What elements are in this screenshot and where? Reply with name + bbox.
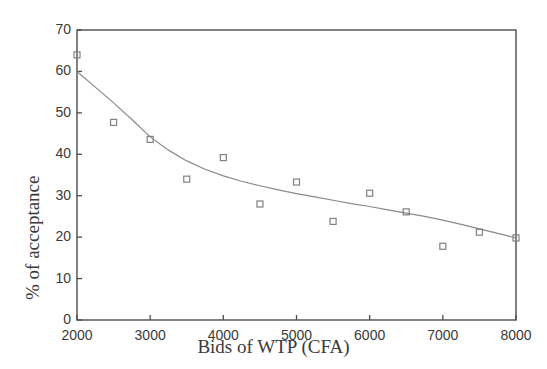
x-axis-title: Bids of WTP (CFA) bbox=[0, 336, 547, 358]
y-tick-label: 50 bbox=[23, 104, 71, 120]
y-tick-label: 70 bbox=[23, 21, 71, 37]
y-tick-label: 0 bbox=[23, 311, 71, 327]
chart-plot-svg bbox=[0, 0, 547, 369]
y-tick-label: 40 bbox=[23, 145, 71, 161]
y-tick-label: 60 bbox=[23, 62, 71, 78]
y-axis-title: % of acceptance bbox=[22, 176, 44, 300]
chart-container: 010203040506070 200030004000500060007000… bbox=[0, 0, 547, 369]
plot-frame bbox=[77, 30, 516, 320]
